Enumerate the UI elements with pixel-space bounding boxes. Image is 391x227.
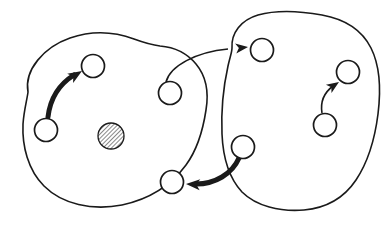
- node-left-hatched: [98, 123, 124, 149]
- node-left-middle: [159, 82, 182, 105]
- node-right-lower: [314, 114, 337, 137]
- right-region: [222, 12, 380, 211]
- node-right-left: [232, 136, 255, 159]
- edge-left-lower-to-left-upper: [48, 75, 74, 117]
- diagram-canvas: [0, 0, 391, 227]
- regions-layer: [23, 12, 380, 211]
- edge-right-lower-to-right-upper: [322, 86, 333, 113]
- node-right-upper: [337, 61, 360, 84]
- node-right-top: [251, 39, 274, 62]
- node-left-lower: [35, 119, 58, 142]
- edge-left-middle-to-right-top-arrowhead-icon: [235, 42, 249, 53]
- node-left-bottom: [161, 171, 184, 194]
- nodes-layer: [35, 39, 360, 194]
- node-left-upper: [82, 55, 105, 78]
- diagram-svg: [0, 0, 391, 227]
